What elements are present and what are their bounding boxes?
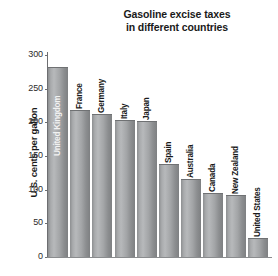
bar-label-text: Spain	[164, 141, 173, 162]
y-tick-label-0: 0	[3, 251, 43, 261]
y-tick-label-250: 250	[3, 83, 43, 93]
bar-rect	[203, 193, 223, 257]
bar-rect	[115, 120, 135, 257]
bar-label: New Zealand	[226, 104, 246, 196]
bar-label: Canada	[203, 102, 223, 194]
bar-label-text: Germany	[97, 79, 106, 113]
bar-label-text: United States	[253, 187, 262, 237]
bar-rect	[181, 179, 201, 257]
bar-rect	[48, 67, 68, 257]
y-axis-ticks: 050100150200250300	[0, 0, 43, 276]
bar-germany[interactable]: Germany	[92, 52, 112, 257]
bar-label: Italy	[115, 29, 135, 121]
y-tick-label-300: 300	[3, 49, 43, 59]
bar-label: Spain	[159, 73, 179, 165]
y-tick-label-100: 100	[3, 184, 43, 194]
y-tick-label-50: 50	[3, 217, 43, 227]
bar-rect	[70, 110, 90, 257]
bar-rect	[137, 121, 157, 257]
x-axis-line	[47, 257, 272, 258]
bar-spain[interactable]: Spain	[159, 52, 179, 257]
chart-title-line-2: in different countries	[84, 21, 270, 34]
bar-united-kingdom[interactable]: United Kingdom	[48, 52, 68, 257]
bar-united-states[interactable]: United States	[248, 52, 268, 257]
bar-series: United KingdomFranceGermanyItalyJapanSpa…	[48, 52, 272, 257]
bar-label-text: France	[75, 83, 84, 109]
bar-label-text: Italy	[120, 104, 129, 119]
bar-label: United States	[248, 147, 268, 239]
bar-label: Germany	[92, 23, 112, 115]
bar-new-zealand[interactable]: New Zealand	[226, 52, 246, 257]
bar-rect	[226, 195, 246, 257]
bar-japan[interactable]: Japan	[137, 52, 157, 257]
bar-label-text: Japan	[142, 98, 151, 121]
y-tick-label-200: 200	[3, 116, 43, 126]
bar-rect	[248, 238, 268, 257]
bar-label-text: Canada	[208, 163, 217, 191]
bar-rect	[92, 114, 112, 257]
bar-france[interactable]: France	[70, 52, 90, 257]
chart-figure: Gasoline excise taxes in different count…	[0, 0, 278, 276]
bar-australia[interactable]: Australia	[181, 52, 201, 257]
bar-label-text: Australia	[186, 145, 195, 178]
bar-label: Australia	[181, 88, 201, 180]
chart-title: Gasoline excise taxes in different count…	[84, 8, 270, 34]
chart-title-line-1: Gasoline excise taxes	[84, 8, 270, 21]
bar-canada[interactable]: Canada	[203, 52, 223, 257]
bar-rect	[159, 164, 179, 257]
bar-label-text: New Zealand	[231, 146, 240, 194]
bar-italy[interactable]: Italy	[115, 52, 135, 257]
bar-label: Japan	[137, 30, 157, 122]
y-tick-label-150: 150	[3, 150, 43, 160]
